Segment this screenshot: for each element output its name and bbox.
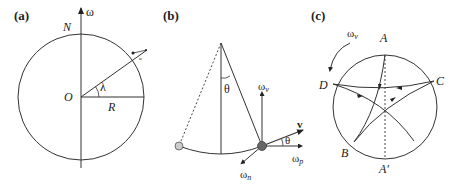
latitude-arc [96,87,100,98]
velocity-label: v [297,118,303,130]
latitude-line [81,50,147,97]
figure-canvas: (a) ω N O R λ α (b) θ ωv v θ ωp ωn [0,0,460,186]
point-c-label: C [436,74,445,88]
omega-n-label: ωn [240,168,251,182]
pendulum-string-dashed [179,43,221,146]
omega-v-rotation-arrow [330,43,350,70]
theta-label: θ [224,82,230,96]
omega-p-label: ωp [292,152,303,166]
radius-label: R [107,100,116,114]
panel-c-tag: (c) [311,8,325,23]
panel-a: (a) ω N O R λ α [14,5,147,168]
theta2-label: θ [285,134,290,146]
panel-b: (b) θ ωv v θ ωp ωn [163,8,303,182]
point-d-label: D [318,78,328,92]
north-label: N [62,20,72,34]
path-b-c [354,81,434,142]
point-a-label: A [379,31,388,45]
latitude-label: λ [100,80,106,94]
bob-left [175,142,183,150]
path-a-b [354,55,385,142]
panel-c: (c) ωv A C D B A' [311,8,445,176]
pendulum-tip [145,49,147,51]
pendulum-dot [132,52,135,55]
theta2-arc [282,139,284,147]
panel-a-tag: (a) [14,8,29,23]
path-c-d [333,81,434,88]
omega-v-label: ωv [258,80,269,94]
omega-label: ω [86,5,94,19]
omega-v-label-c: ωv [347,27,358,41]
bob-right [258,142,267,151]
panel-b-tag: (b) [163,8,179,23]
path-d-e [333,84,414,141]
point-a-prime-label: A' [378,162,389,176]
theta-arc [221,76,230,78]
point-b-label: B [341,146,349,160]
arrow-b-c [390,97,396,102]
origin-label: O [64,90,73,104]
small-angle-mark: α [139,56,142,61]
